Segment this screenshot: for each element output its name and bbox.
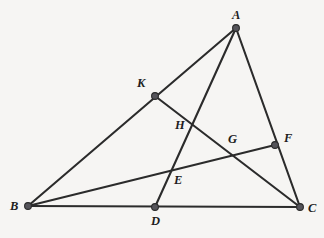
vertices-group [25, 25, 304, 211]
segment-AD [155, 28, 236, 207]
point-label-F: F [284, 132, 292, 145]
geometry-figure: ABCKDFGHE [0, 0, 324, 238]
segment-AC [236, 28, 300, 207]
geometry-canvas [0, 0, 324, 238]
vertex-dot-F [272, 142, 279, 149]
point-label-B: B [10, 200, 18, 213]
point-label-H: H [175, 119, 185, 132]
vertex-dot-C [297, 204, 304, 211]
point-label-A: A [232, 9, 240, 22]
segments-group [28, 28, 300, 207]
point-label-G: G [228, 133, 237, 146]
vertex-dot-B [25, 203, 32, 210]
vertex-dot-K [152, 93, 159, 100]
point-label-K: K [137, 77, 145, 90]
point-label-C: C [308, 202, 316, 215]
point-label-E: E [174, 174, 182, 187]
vertex-dot-D [152, 204, 159, 211]
point-label-D: D [151, 215, 160, 228]
segment-BC [28, 206, 300, 207]
vertex-dot-A [233, 25, 240, 32]
segment-KC [155, 96, 300, 207]
